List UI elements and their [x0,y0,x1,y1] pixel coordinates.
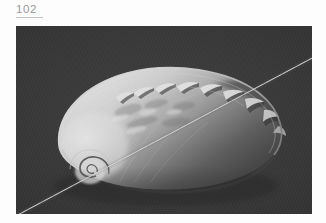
folio-rule [16,17,43,18]
abalone-shell-photograph [16,26,312,214]
photo-plate [16,26,312,214]
folio: 102 [16,2,76,18]
page-number: 102 [16,2,76,16]
book-page: 102 [0,0,326,223]
